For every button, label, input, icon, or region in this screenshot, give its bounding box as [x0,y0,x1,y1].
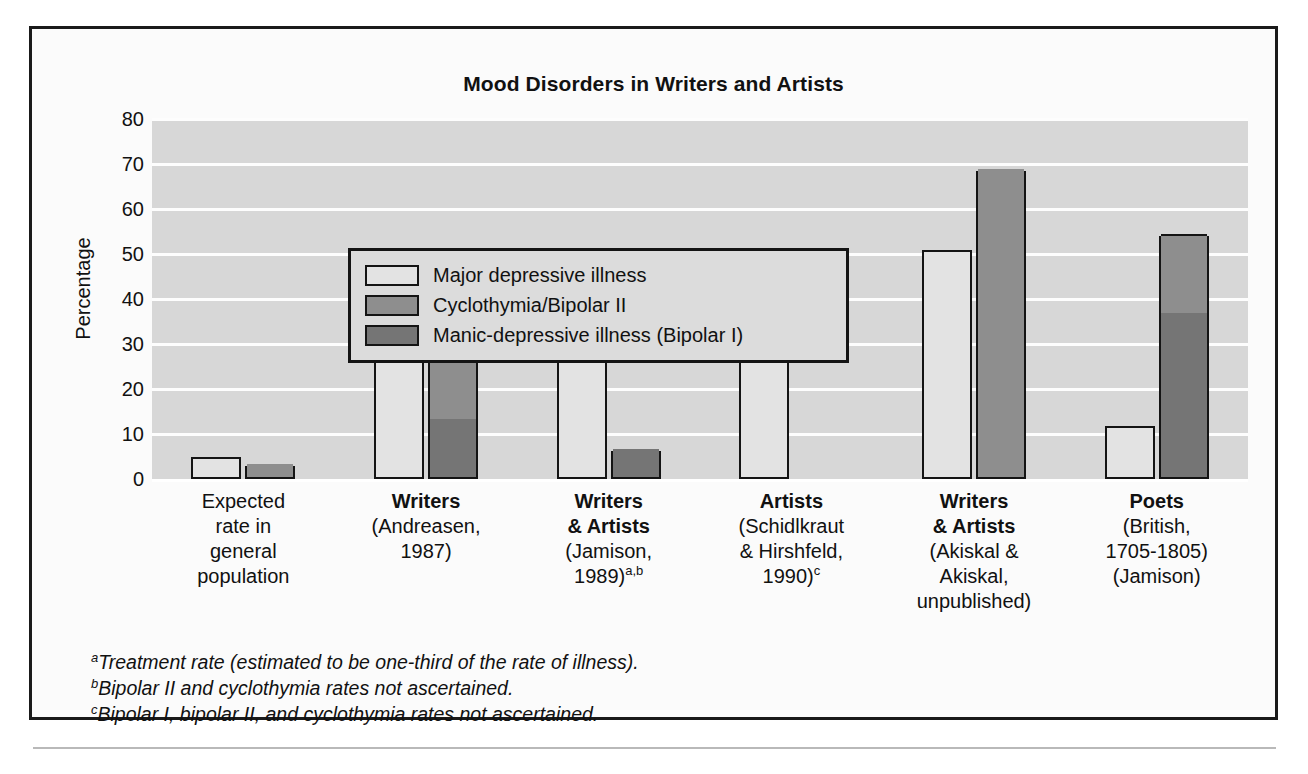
plot-area: Major depressive illnessCyclothymia/Bipo… [152,119,1248,479]
gridline [152,208,1248,211]
chart-legend: Major depressive illnessCyclothymia/Bipo… [348,248,849,363]
y-axis-tick-label: 0 [92,469,144,489]
y-axis-tick-labels: 80706050403020100 [84,119,144,479]
gridline [152,163,1248,166]
footnotes: aTreatment rate (estimated to be one-thi… [91,649,991,727]
category-label-line: Poets [1065,489,1248,514]
legend-swatch-icon [365,295,419,316]
gridline [152,118,1248,121]
y-axis-tick-label: 60 [92,199,144,219]
category-label-line: (Andreasen, [335,514,518,539]
bar-bipolar-stack [611,451,661,479]
y-axis-tick-label: 80 [92,109,144,129]
category-label-line: 1989)a,b [517,564,700,589]
bar-segment-cyclothymia-bipolar2 [978,169,1024,477]
y-axis-tick-label: 30 [92,334,144,354]
category-label-line: 1987) [335,539,518,564]
legend-swatch-icon [365,325,419,346]
category-label-line: (Schidlkraut [700,514,883,539]
bar-segment-major [193,459,239,478]
category-label-line: 1990)c [700,564,883,589]
x-axis-category: Expectedrate ingeneralpopulation [152,489,335,619]
x-axis-line [152,479,1248,482]
y-axis-tick-label: 10 [92,424,144,444]
legend-item: Cyclothymia/Bipolar II [365,290,834,320]
footnote-marker: a [91,650,98,665]
footnote-marker: c [91,702,98,717]
category-label-line: 1705-1805) [1065,539,1248,564]
category-label-line: (British, [1065,514,1248,539]
footnote-marker: a,b [625,563,643,578]
footnote-marker: c [814,563,821,578]
category-label-line: Writers [883,489,1066,514]
footnote: bBipolar II and cyclothymia rates not as… [91,675,991,701]
category-label-line: (Jamison) [1065,564,1248,589]
category-label-line: & Artists [883,514,1066,539]
legend-item-label: Cyclothymia/Bipolar II [433,295,626,315]
category-label-line: (Akiskal & [883,539,1066,564]
y-axis-tick-label: 70 [92,154,144,174]
legend-item-label: Manic-depressive illness (Bipolar I) [433,325,743,345]
x-axis-category-labels: Expectedrate ingeneralpopulationWriters(… [152,489,1248,619]
category-label-line: Akiskal, [883,564,1066,589]
category-label-line: & Artists [517,514,700,539]
page-title: Mood Disorders in Writers and Artists [32,72,1275,96]
bar-segment-cyclothymia-bipolar2 [247,464,293,477]
footnote-marker: b [91,676,98,691]
category-label-line: general [152,539,335,564]
bar-segment-manic-depressive [430,419,476,478]
footnote: cBipolar I, bipolar II, and cyclothymia … [91,701,991,727]
x-axis-category: Writers& Artists(Jamison,1989)a,b [517,489,700,619]
bar-segment-manic-depressive [613,449,659,477]
category-label-line: Writers [517,489,700,514]
category-label-line: Artists [700,489,883,514]
category-label-line: & Hirshfeld, [700,539,883,564]
category-label-line: unpublished) [883,589,1066,614]
bar-segment-manic-depressive [1161,313,1207,477]
bar-segment-major [1107,428,1153,477]
bar-major-depressive-illness [1105,426,1155,479]
footnote: aTreatment rate (estimated to be one-thi… [91,649,991,675]
gridline [152,388,1248,391]
x-axis-category: Poets(British,1705-1805)(Jamison) [1065,489,1248,619]
y-axis-tick-label: 50 [92,244,144,264]
category-label-line: (Jamison, [517,539,700,564]
category-label-line: rate in [152,514,335,539]
category-label-line: Expected [152,489,335,514]
bar-bipolar-stack [245,466,295,479]
bar-segment-major [924,252,970,478]
bar-segment-cyclothymia-bipolar2 [1161,234,1207,313]
bottom-divider [33,747,1276,749]
legend-item-label: Major depressive illness [433,265,646,285]
legend-item: Manic-depressive illness (Bipolar I) [365,320,834,350]
bar-bipolar-stack [1159,236,1209,479]
figure-frame: Mood Disorders in Writers and Artists Pe… [29,26,1278,720]
bar-bipolar-stack [976,171,1026,479]
x-axis-category: Artists(Schidlkraut& Hirshfeld,1990)c [700,489,883,619]
bar-major-depressive-illness [191,457,241,480]
gridline [152,433,1248,436]
x-axis-category: Writers& Artists(Akiskal &Akiskal,unpubl… [883,489,1066,619]
legend-item: Major depressive illness [365,260,834,290]
category-label-line: population [152,564,335,589]
x-axis-category: Writers(Andreasen,1987) [335,489,518,619]
category-label-line: Writers [335,489,518,514]
y-axis-tick-label: 40 [92,289,144,309]
bar-major-depressive-illness [922,250,972,480]
y-axis-tick-label: 20 [92,379,144,399]
legend-swatch-icon [365,265,419,286]
